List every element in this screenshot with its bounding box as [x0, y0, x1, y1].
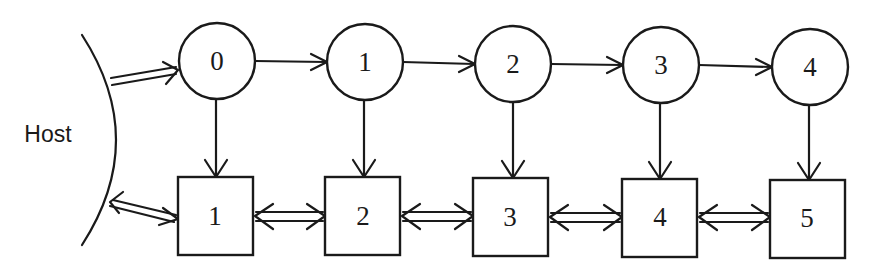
- node-0: 0: [179, 23, 255, 99]
- svg-text:0: 0: [210, 46, 224, 76]
- box-2: 2: [325, 177, 400, 255]
- svg-text:1: 1: [208, 201, 222, 231]
- box-4: 4: [622, 179, 697, 257]
- node-2: 2: [475, 26, 551, 102]
- memory-boxes: 1 2 3 4 5: [178, 177, 845, 258]
- svg-text:1: 1: [358, 47, 372, 77]
- systolic-array-diagram: Host: [0, 0, 882, 269]
- svg-text:3: 3: [654, 50, 668, 80]
- svg-text:3: 3: [503, 202, 517, 232]
- host-to-node0-arrow: [111, 62, 178, 85]
- box4-box5-arrow: [699, 205, 770, 230]
- box2-box3-arrow: [402, 204, 473, 229]
- svg-text:4: 4: [653, 202, 667, 232]
- node-1: 1: [327, 24, 403, 100]
- host-box1-bidirectional-arrow: [110, 192, 178, 225]
- box-5: 5: [770, 180, 845, 258]
- svg-text:2: 2: [506, 49, 520, 79]
- svg-text:5: 5: [800, 203, 814, 233]
- box1-box2-arrow: [255, 204, 325, 229]
- host-boundary-arc: [82, 35, 116, 245]
- processing-nodes: 0 1 2 3 4: [179, 23, 848, 105]
- box-1: 1: [178, 177, 253, 255]
- node-3: 3: [623, 27, 699, 103]
- node-4: 4: [772, 29, 848, 105]
- node-to-box-arrows: [205, 99, 820, 180]
- box3-box4-arrow: [550, 205, 622, 230]
- svg-text:2: 2: [356, 201, 370, 231]
- host-label: Host: [24, 121, 72, 147]
- svg-text:4: 4: [803, 52, 817, 82]
- box-3: 3: [473, 178, 548, 256]
